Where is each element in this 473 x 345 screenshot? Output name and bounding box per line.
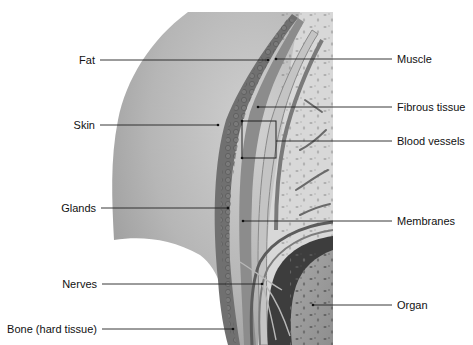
label-fat: Fat: [79, 54, 95, 66]
label-skin: Skin: [74, 119, 95, 131]
leader-dot: [267, 59, 270, 62]
leader-dot: [242, 220, 245, 223]
leader-dot: [275, 58, 278, 61]
label-fibrous-tissue: Fibrous tissue: [397, 101, 465, 113]
anatomy-illustration: [0, 0, 473, 345]
leader-dot: [312, 304, 315, 307]
label-muscle: Muscle: [397, 53, 432, 65]
leader-dot: [227, 207, 230, 210]
leader-dot: [241, 120, 244, 123]
label-organ: Organ: [397, 299, 428, 311]
label-membranes: Membranes: [397, 215, 455, 227]
leader-dot: [241, 157, 244, 160]
label-glands: Glands: [61, 202, 96, 214]
label-bone: Bone (hard tissue): [7, 323, 97, 335]
leader-dot: [261, 283, 264, 286]
leader-dot: [257, 106, 260, 109]
label-nerves: Nerves: [62, 278, 97, 290]
leader-dot: [217, 124, 220, 127]
leader-dot: [232, 328, 235, 331]
label-blood-vessels: Blood vessels: [397, 135, 465, 147]
